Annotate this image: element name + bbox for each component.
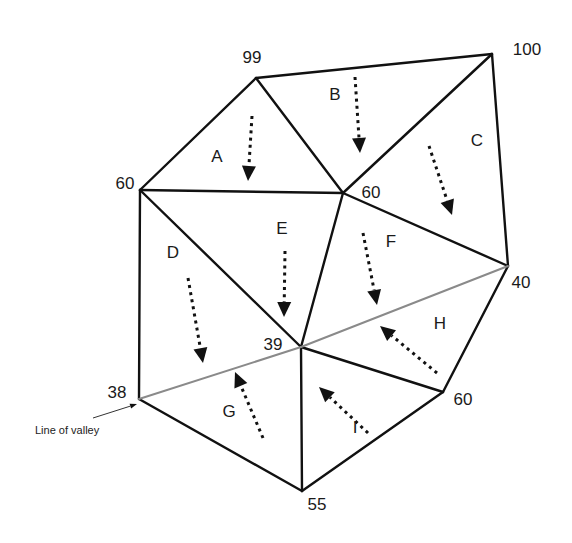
triangle-edge [443,266,508,392]
valley-annotation: Line of valley [35,404,137,436]
flow-arrow-g [234,372,263,438]
triangle-edge [256,54,492,78]
flow-arrow-a [242,116,256,181]
elevation-label: 60 [454,390,473,409]
arrowhead-icon [277,302,291,317]
elevation-label: 38 [108,383,127,402]
dotted-flow-line [188,278,200,348]
elevation-label: 100 [513,40,541,59]
triangle-edge [302,392,443,491]
region-label-a: A [211,147,223,166]
triangle-edge [140,190,301,347]
elevation-label: 39 [264,335,283,354]
triangle-edge [492,54,508,266]
arrowhead-icon [242,166,256,181]
dotted-flow-line [392,336,437,373]
triangle-edge [343,54,492,193]
dotted-flow-line [249,116,252,166]
triangle-edge [301,347,302,491]
elevation-label: 60 [116,174,135,193]
dotted-flow-line [241,386,263,438]
dotted-flow-line [284,251,285,302]
flow-arrow-d [188,278,207,363]
elevation-label: 99 [243,48,262,67]
elevation-label: 55 [308,495,327,514]
arrowhead-icon [441,199,454,215]
triangle-edge [140,190,343,193]
flow-arrow-e [277,251,291,317]
arrowhead-icon [234,372,247,389]
dotted-flow-line [429,146,447,201]
arrowhead-icon [352,138,366,153]
region-label-f: F [386,232,396,251]
triangle-edge [139,190,140,399]
arrowhead-icon [367,289,381,305]
region-label-h: H [434,314,446,333]
region-label-d: D [167,243,179,262]
region-label-b: B [329,85,340,104]
triangle-edge [301,347,443,392]
arrowhead-icon [380,326,396,341]
triangle-edge [139,399,302,491]
flow-arrow-h [380,326,437,373]
triangle-edges [139,54,508,491]
flow-arrow-i [319,387,368,433]
arrowhead-icon [319,387,335,402]
region-label-i: I [353,418,358,437]
elevation-label: 40 [512,273,531,292]
annotation-pointer-line [93,406,130,418]
flow-arrow-b [352,77,366,153]
valley-flow-diagram: 9910060604039603855 ABCDEFGHI Line of va… [0,0,572,543]
dotted-flow-line [363,233,374,290]
line-of-valley-label: Line of valley [35,424,100,436]
annotation-arrowhead-icon [130,404,137,409]
valley-line [301,266,508,347]
arrowhead-icon [193,347,207,363]
region-label-g: G [222,402,235,421]
dotted-flow-line [330,397,368,433]
flow-arrow-f [363,233,381,305]
triangle-edge [140,78,256,190]
valley-line [139,347,301,399]
region-label-c: C [471,131,483,150]
elevation-label: 60 [362,183,381,202]
flow-arrow-c [429,146,454,215]
elevation-labels: 9910060604039603855 [108,40,542,514]
triangle-edge [301,193,343,347]
dotted-flow-line [355,77,359,138]
region-label-e: E [276,219,287,238]
